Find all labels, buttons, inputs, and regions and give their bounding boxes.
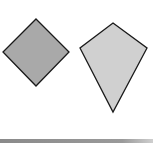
shapes-figure [0, 0, 153, 143]
kite-shape [80, 23, 147, 112]
bottom-rule [0, 139, 153, 143]
rotated-square-shape [3, 19, 69, 86]
